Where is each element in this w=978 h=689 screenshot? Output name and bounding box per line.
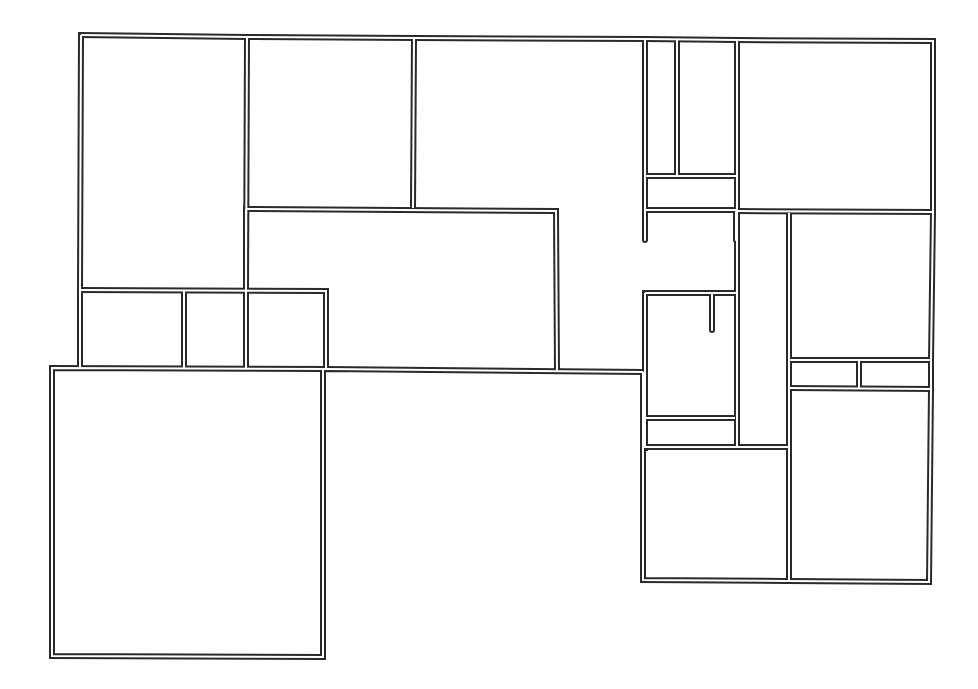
wall-inner bbox=[737, 211, 933, 212]
wall-inner bbox=[413, 38, 414, 208]
walls-inner-layer bbox=[52, 35, 933, 657]
wall-inner bbox=[80, 35, 81, 368]
wall-inner bbox=[80, 290, 326, 369]
wall-inner bbox=[52, 368, 643, 657]
wall-inner bbox=[789, 388, 931, 389]
wall bbox=[80, 290, 326, 369]
wall bbox=[81, 35, 933, 582]
floor-plan bbox=[0, 0, 978, 689]
wall bbox=[52, 368, 643, 657]
wall-inner bbox=[81, 35, 933, 582]
